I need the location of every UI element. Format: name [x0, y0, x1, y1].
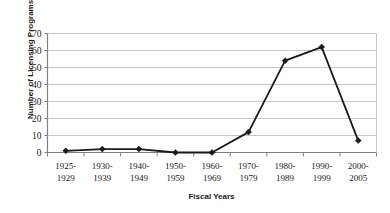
- x-tick-label: 1939: [93, 173, 112, 183]
- line-chart-figure: Number of Licensing Programs Started 010…: [0, 0, 390, 213]
- data-line-group: [66, 47, 358, 152]
- data-point-marker: [282, 58, 288, 64]
- x-tick-label: 1940-: [128, 161, 149, 171]
- y-tick-label: 70: [32, 29, 42, 39]
- y-tick-labels-group: 010203040506070: [32, 29, 42, 158]
- x-tick-label: 1959: [166, 173, 185, 183]
- axis-lines-group: [48, 34, 377, 153]
- x-tick-label: 1950-: [165, 161, 186, 171]
- data-point-marker: [136, 146, 142, 152]
- x-tick-label: 1925-: [55, 161, 76, 171]
- x-tick-labels-group: 1925-19291930-19391940-19491950-19591960…: [55, 161, 368, 183]
- y-tick-label: 0: [37, 148, 42, 158]
- x-tick-label: 1999: [313, 173, 332, 183]
- y-tick-label: 60: [32, 46, 42, 56]
- x-tick-label: 2000-: [348, 161, 369, 171]
- y-tick-label: 50: [32, 63, 42, 73]
- x-tick-label: 1979: [240, 173, 259, 183]
- gridlines-group: [48, 34, 377, 136]
- y-tick-label: 30: [32, 97, 42, 107]
- x-tick-label: 1960-: [202, 161, 223, 171]
- x-tick-label: 1930-: [92, 161, 113, 171]
- y-tick-label: 40: [32, 80, 42, 90]
- data-point-marker: [172, 150, 178, 156]
- y-tick-label: 20: [32, 114, 42, 124]
- x-tick-label: 2005: [349, 173, 368, 183]
- data-point-marker: [99, 146, 105, 152]
- x-tick-label: 1969: [203, 173, 222, 183]
- x-tick-label: 1949: [130, 173, 149, 183]
- plot-area: 010203040506070 1925-19291930-19391940-1…: [0, 0, 390, 213]
- y-tick-label: 10: [32, 131, 42, 141]
- x-tick-label: 1980-: [275, 161, 296, 171]
- data-point-marker: [355, 138, 361, 144]
- data-point-marker: [319, 44, 325, 50]
- x-tick-label: 1989: [276, 173, 295, 183]
- data-point-markers-group: [63, 44, 361, 155]
- x-axis-title: Fiscal Years: [47, 192, 376, 201]
- x-tick-label: 1929: [57, 173, 76, 183]
- x-tick-label: 1970-: [238, 161, 259, 171]
- x-tick-label: 1990-: [311, 161, 332, 171]
- data-line: [66, 47, 358, 152]
